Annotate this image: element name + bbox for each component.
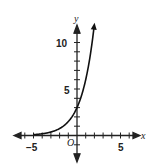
x-tick-label-neg5: −5 xyxy=(26,142,38,153)
exponential-graph: y x O −5 5 5 10 xyxy=(0,0,156,168)
y-tick-label-10: 10 xyxy=(56,38,68,49)
y-axis-label: y xyxy=(73,13,79,24)
y-tick-label-5: 5 xyxy=(64,85,70,96)
origin-label: O xyxy=(67,137,74,148)
curve-arrow-icon xyxy=(91,23,97,30)
x-axis-label: x xyxy=(140,130,146,141)
y-axis xyxy=(74,25,80,162)
x-tick-label-5: 5 xyxy=(118,142,124,153)
